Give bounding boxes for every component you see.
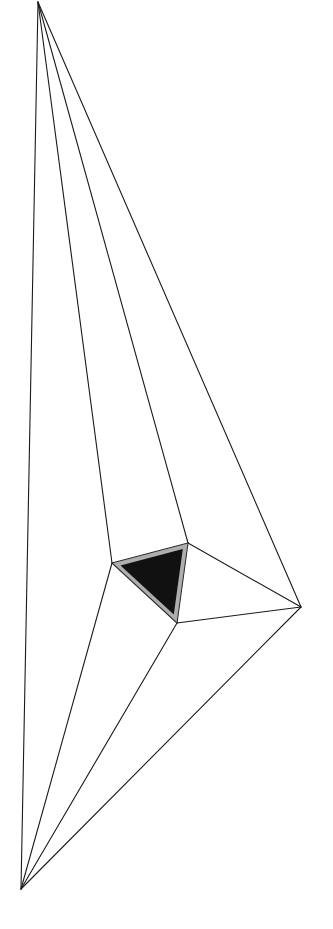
shaded-core-triangle [112, 543, 188, 623]
edge-lines [21, 2, 301, 889]
edge-core-top-right-to-right [188, 543, 301, 607]
geometric-line-drawing [0, 0, 333, 929]
edge-core-bottom-to-right [177, 607, 301, 623]
edge-bottom-to-core-left [21, 563, 112, 889]
edge-apex-to-bottom [21, 2, 38, 889]
edge-apex-to-core-top-right [38, 2, 188, 543]
